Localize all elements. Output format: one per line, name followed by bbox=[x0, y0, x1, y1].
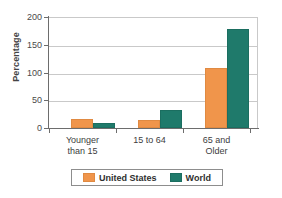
x-category-line-1: Younger bbox=[49, 135, 116, 146]
gridline-150 bbox=[49, 46, 257, 47]
legend-swatch-icon-world bbox=[170, 173, 182, 182]
bar-chart-figure: Percentage 200 150 100 50 0 bbox=[0, 0, 282, 198]
x-tick-mark bbox=[49, 128, 50, 133]
x-category-label-younger-than-15: Younger than 15 bbox=[49, 135, 116, 157]
y-tick-0: 0 bbox=[8, 128, 42, 129]
x-axis-line bbox=[44, 128, 259, 129]
legend-label-united-states: United States bbox=[99, 173, 157, 183]
chart-legend: United States World bbox=[71, 169, 223, 186]
x-category-line-1: 65 and bbox=[183, 135, 250, 146]
y-tick-label: 150 bbox=[12, 40, 42, 50]
y-tick-150: 150 bbox=[8, 45, 42, 46]
y-tick-100: 100 bbox=[8, 73, 42, 74]
legend-entry-united-states: United States bbox=[83, 173, 157, 183]
x-tick-mark bbox=[183, 128, 184, 133]
y-tick-label: 50 bbox=[12, 95, 42, 105]
y-tick-label: 200 bbox=[12, 12, 42, 22]
bar-us-younger-than-15 bbox=[71, 119, 93, 128]
x-category-line-1: 15 to 64 bbox=[116, 135, 183, 146]
y-tick-200: 200 bbox=[8, 17, 42, 18]
x-category-line-2: Older bbox=[183, 146, 250, 157]
plot-area bbox=[49, 17, 258, 128]
bar-world-15-to-64 bbox=[160, 110, 182, 128]
legend-entry-world: World bbox=[170, 173, 211, 183]
bar-us-65-and-older bbox=[205, 68, 227, 129]
x-category-label-15-to-64: 15 to 64 bbox=[116, 135, 183, 146]
y-axis-line bbox=[48, 16, 49, 129]
x-tick-mark bbox=[250, 128, 251, 133]
bar-us-15-to-64 bbox=[138, 120, 160, 128]
y-axis-title: Percentage bbox=[11, 17, 21, 97]
y-tick-label: 0 bbox=[12, 123, 42, 133]
x-category-label-65-and-older: 65 and Older bbox=[183, 135, 250, 157]
x-tick-mark bbox=[116, 128, 117, 133]
y-tick-50: 50 bbox=[8, 100, 42, 101]
legend-label-world: World bbox=[186, 173, 211, 183]
x-category-line-2: than 15 bbox=[49, 146, 116, 157]
bar-world-65-and-older bbox=[227, 29, 249, 128]
y-tick-label: 100 bbox=[12, 68, 42, 78]
legend-swatch-icon-united-states bbox=[83, 173, 95, 182]
